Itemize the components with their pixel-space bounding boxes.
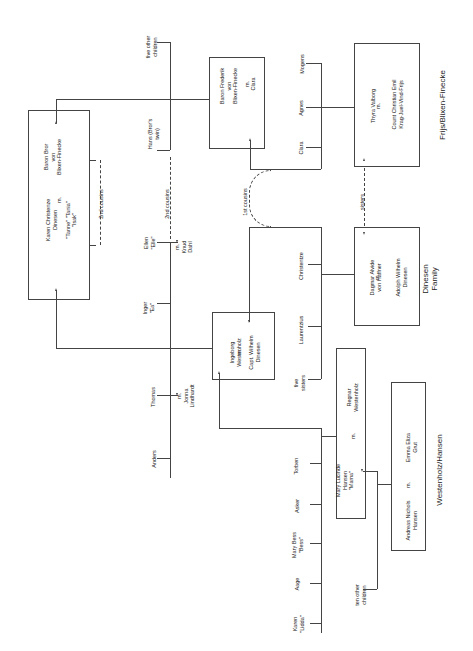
connector-line: [321, 63, 322, 169]
person-agnes: Agnes: [298, 97, 306, 119]
connector-line: [306, 63, 321, 64]
relation-dashed-line: [364, 168, 365, 226]
arrow-icon: [218, 371, 220, 374]
connector-line: [363, 471, 377, 472]
relation-dashed-line: [170, 157, 171, 239]
connector-line: [56, 99, 209, 100]
person-bror-blixen: Baron Bror von Blixen-Finecke: [43, 127, 67, 187]
person-mogens: Mogens: [299, 51, 307, 77]
person-asker: Asker: [294, 496, 302, 516]
family-label-dinesen: Dinesen Family: [421, 259, 439, 299]
connector-line: [363, 589, 377, 590]
person-torben: Torben: [293, 454, 301, 478]
connector-line: [219, 428, 321, 429]
person-clara-child: Clara: [298, 139, 306, 157]
person-jonna-lindhardt: m. Jonna Lindhardt: [176, 382, 196, 410]
relation-sisters: sisters: [359, 190, 367, 214]
arrow-icon: [248, 320, 250, 323]
arrow-icon: [361, 469, 363, 472]
connector-line: [157, 395, 170, 396]
relation-dashed-line: [100, 160, 101, 245]
person-mary-bess: Mary Bess "Bess": [291, 530, 305, 560]
connector-line: [157, 42, 170, 43]
person-thomas: Thomas: [150, 384, 158, 410]
couple-box-dagmar-adolph: [354, 227, 420, 326]
connector-line: [157, 242, 170, 243]
person-mary-lucinde-hansen: Mary Lucinde Hansen "Mama": [335, 461, 356, 501]
person-anders: Anders: [151, 447, 159, 471]
person-wilhelm-dinesen: Capt. Wilhelm Dinesen: [248, 331, 263, 375]
person-count-emil-frijs: Count Christian Emil Krag-Juel-Vind-Frij…: [391, 75, 406, 135]
connector-line: [310, 463, 321, 464]
marriage-marker: m.: [236, 346, 244, 358]
connector-line: [90, 160, 96, 161]
connector-line: [310, 623, 321, 624]
arrow-icon: [176, 393, 178, 396]
person-laurentzius: Laurentzius: [298, 311, 306, 349]
connector-line: [310, 504, 321, 505]
person-regnar-westenholz: Regnar Westenholz: [346, 378, 361, 418]
connector-line: [321, 436, 336, 437]
connector-line: [219, 373, 220, 428]
marriage-marker: m.: [375, 100, 383, 112]
connector-line: [56, 99, 57, 123]
person-adolph-dinesen: Adolph Wilhelm Dinesen: [395, 253, 410, 303]
marriage-marker: m.: [405, 479, 413, 491]
connector-line: [250, 140, 251, 169]
connector-line: [56, 348, 212, 349]
connector-line: [377, 471, 378, 589]
arrow-icon: [363, 232, 365, 235]
person-hans: Hans (Bror's twin): [147, 116, 161, 152]
connector-line: [250, 169, 321, 170]
connector-line: [321, 428, 322, 633]
connector-line: [90, 245, 96, 246]
connector-line: [170, 42, 171, 150]
family-label-westenholz-hansen: Westenholz/Hansen: [435, 420, 445, 520]
family-label-frijs-blixen: Frijs/Blixen-Finecke: [438, 55, 448, 155]
arrow-icon: [176, 240, 178, 243]
connector-line: [56, 290, 57, 348]
connector-line: [308, 326, 321, 327]
connector-line: [157, 303, 170, 304]
person-five-sisters: five sisters: [293, 373, 307, 393]
relation-dashed-curve: [249, 170, 271, 227]
connector-line: [306, 107, 354, 108]
marriage-marker: m.: [350, 430, 358, 442]
arrow-icon: [55, 288, 57, 291]
connector-line: [321, 274, 354, 275]
person-inger: Inger "Ea": [142, 299, 156, 317]
person-andreas-hansen: Andreas Nichols Hansen: [405, 494, 420, 548]
connector-line: [308, 379, 321, 380]
arrow-icon: [55, 121, 57, 124]
connector-line: [170, 242, 171, 478]
person-clara: Clara: [250, 74, 258, 94]
arrow-icon: [363, 158, 365, 161]
person-christentze: Christentze: [298, 246, 306, 286]
person-frederik-blixen: Baron Frederik von Blixen-Finecke: [219, 56, 241, 116]
person-emma-grut: Emma Eliza Grut: [405, 428, 420, 468]
couple-box-thyra-emil: [354, 43, 420, 167]
person-karen-lidda: Karen "Lidda": [292, 614, 306, 634]
person-ten-other-children: ten other children: [354, 579, 368, 611]
marriage-marker: m.: [374, 271, 382, 283]
connector-line: [310, 543, 321, 544]
arrow-icon: [249, 138, 251, 141]
person-five-other-children: five other children: [145, 30, 159, 64]
marriage-marker: m.: [56, 190, 64, 210]
connector-line: [249, 227, 250, 322]
person-ellen: Ellen "Elle": [143, 233, 157, 253]
person-aage: Aage: [294, 575, 302, 593]
connector-line: [306, 147, 321, 148]
person-knud-dahl: m. Knud Dahl: [174, 235, 194, 259]
connector-line: [308, 264, 321, 265]
connector-line: [377, 484, 391, 485]
connector-line: [310, 583, 321, 584]
connector-line: [249, 227, 321, 228]
connector-line: [157, 150, 170, 151]
connector-line: [157, 458, 170, 459]
connector-line: [321, 227, 322, 379]
